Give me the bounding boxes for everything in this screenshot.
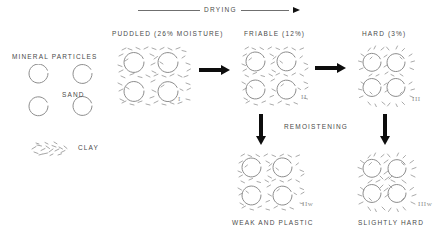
- numeral-puddled: I: [178, 96, 181, 103]
- soil-structure-diagram: DRYING MINERAL PARTICLES SAND: [0, 0, 442, 239]
- arrow-head-icon: [221, 65, 230, 75]
- clay-flecks-icon: [28, 138, 72, 158]
- arrow-hard-to-remoistened: [380, 114, 390, 145]
- drying-arrow: DRYING: [138, 7, 300, 14]
- legend-clay-symbol: [28, 138, 72, 158]
- numeral-hard: III: [412, 96, 421, 103]
- soil-block-friable: [240, 45, 310, 107]
- numeral-friable: II: [301, 94, 307, 101]
- column-header-friable: FRIABLE (12%): [244, 31, 305, 38]
- arrow-friable-to-hard: [315, 63, 346, 73]
- arrow-head-icon: [256, 136, 266, 145]
- soil-block-friable-remoistened: [236, 152, 306, 212]
- numeral-hard-remoistened: IIIw: [418, 201, 432, 208]
- arrow-shaft: [259, 114, 263, 136]
- numeral-friable-remoistened: IIw: [302, 201, 314, 208]
- soil-block-hard: [356, 45, 418, 107]
- drying-line-right: [241, 10, 289, 11]
- soil-block-hard-remoistened: [356, 152, 420, 212]
- arrow-head-icon: [337, 63, 346, 73]
- column-header-hard: HARD (3%): [362, 31, 406, 38]
- drying-label: DRYING: [204, 7, 237, 14]
- remoistening-label: REMOISTENING: [284, 124, 348, 131]
- legend-clay-label: CLAY: [78, 145, 99, 152]
- drying-arrowhead-icon: [293, 7, 300, 13]
- soil-block-hard-svg: [356, 45, 418, 107]
- legend-sand-label: SAND: [62, 92, 85, 99]
- caption-weak-and-plastic: WEAK AND PLASTIC: [232, 220, 314, 227]
- soil-block-friable-remoistened-svg: [236, 152, 306, 212]
- soil-block-hard-remoistened-svg: [356, 152, 420, 212]
- arrow-shaft: [315, 66, 337, 70]
- soil-block-friable-svg: [240, 45, 310, 107]
- legend-mineral-particles-label: MINERAL PARTICLES: [12, 54, 98, 61]
- arrow-friable-to-remoistened: [256, 114, 266, 145]
- arrow-shaft: [199, 68, 221, 72]
- drying-line-left: [138, 10, 200, 11]
- caption-slightly-hard: SLIGHTLY HARD: [358, 220, 424, 227]
- arrow-shaft: [383, 114, 387, 136]
- arrow-head-icon: [380, 136, 390, 145]
- arrow-puddled-to-friable: [199, 65, 230, 75]
- column-header-puddled: PUDDLED (26% MOISTURE): [112, 31, 224, 38]
